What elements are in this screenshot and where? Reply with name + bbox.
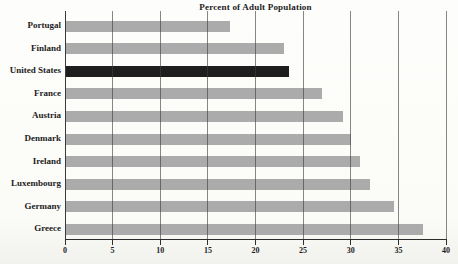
gridline (350, 11, 351, 239)
category-label: Portugal (0, 20, 61, 30)
y-axis-line (65, 11, 66, 239)
bar-portugal (65, 21, 230, 32)
gridline (446, 11, 447, 239)
category-label: Luxembourg (0, 178, 61, 188)
x-tick-label: 40 (435, 246, 457, 255)
gridline (160, 11, 161, 239)
gridline (398, 11, 399, 239)
x-axis-line (65, 239, 447, 240)
category-label: France (0, 88, 61, 98)
x-tick-label: 0 (54, 246, 76, 255)
x-tick-label: 30 (340, 246, 362, 255)
x-tick-label: 15 (197, 246, 219, 255)
x-tick-label: 20 (245, 246, 267, 255)
adult-population-bar-chart: Percent of Adult Population PortugalFinl… (0, 0, 458, 264)
gridline (303, 11, 304, 239)
bar-germany (65, 201, 394, 212)
x-tick-label: 10 (149, 246, 171, 255)
x-tick-label: 35 (387, 246, 409, 255)
bar-luxembourg (65, 179, 370, 190)
gridline (112, 11, 113, 239)
bar-france (65, 88, 322, 99)
category-label: Finland (0, 43, 61, 53)
gridline (207, 11, 208, 239)
category-label: Denmark (0, 133, 61, 143)
category-label: Greece (0, 223, 61, 233)
category-label: Germany (0, 201, 61, 211)
bar-austria (65, 111, 343, 122)
bar-finland (65, 43, 284, 54)
category-label: United States (0, 65, 61, 75)
bar-greece (65, 224, 423, 235)
category-label: Ireland (0, 156, 61, 166)
category-label: Austria (0, 110, 61, 120)
bar-ireland (65, 156, 360, 167)
x-tick-label: 25 (292, 246, 314, 255)
gridline (255, 11, 256, 239)
x-tick-label: 5 (102, 246, 124, 255)
